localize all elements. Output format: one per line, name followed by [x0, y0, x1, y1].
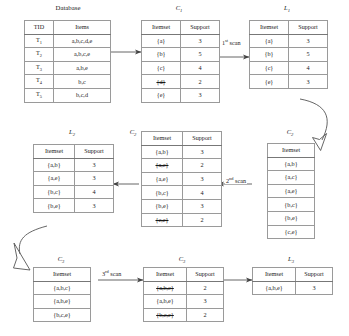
- table-row: {a,b}: [268, 157, 315, 171]
- cell-itemset: {a,e}: [34, 172, 75, 186]
- cell-support: 3: [183, 199, 222, 213]
- cell-support: 2: [183, 213, 222, 227]
- table-row: {a,b,e}3: [144, 295, 224, 309]
- cell-support: 3: [75, 158, 114, 172]
- table-l3: Itemset Support {a,b,e}3: [252, 267, 333, 295]
- table-row: {c,e}: [268, 225, 315, 239]
- table-header-row: Itemset Support: [142, 21, 220, 35]
- table-row: {b,e}: [268, 211, 315, 225]
- table-row: {e}3: [142, 88, 220, 102]
- table-row: {a,b}3: [34, 158, 114, 172]
- table-header-row: Itemset Support: [142, 132, 222, 146]
- table-c3-counted: Itemset Support {a,b,c}2 {a,b,e}3 {b,c,e…: [143, 267, 224, 322]
- cell-itemset: {b,e}: [268, 211, 315, 225]
- cell-itemset-pruned: {b,c,e}: [144, 308, 187, 322]
- cell-support: 3: [289, 34, 328, 48]
- table-row: T4 b,c: [25, 75, 111, 89]
- cell-itemset: {a}: [250, 34, 289, 48]
- table-row: {a}3: [250, 34, 328, 48]
- cell-items: b,c,d: [54, 88, 111, 102]
- cell-itemset: {a}: [142, 34, 181, 48]
- cell-itemset: {b,c}: [268, 198, 315, 212]
- table-row: T1 a,b,c,d,e: [25, 34, 111, 48]
- table-l2: Itemset Support {a,b}3 {a,e}3 {b,c}4 {b,…: [33, 144, 114, 213]
- column-header-support: Support: [187, 268, 224, 282]
- column-header-tid: TID: [25, 21, 54, 35]
- column-header-itemset: Itemset: [144, 268, 187, 282]
- cell-tid: T1: [25, 34, 54, 48]
- table-c2-candidates: Itemset {a,b} {a,c} {a,e} {b,c} {b,e} {c…: [267, 143, 315, 239]
- database-caption: Database: [24, 4, 112, 11]
- cell-itemset: {a,b,c}: [34, 281, 91, 295]
- cell-items: a,b,c,e: [54, 48, 111, 62]
- table-c2-counted: Itemset Support {a,b}3 {a,c}2 {a,e}3 {b,…: [141, 131, 222, 227]
- cell-tid: T4: [25, 75, 54, 89]
- scan-label-2: 2nd scan: [225, 176, 247, 184]
- table-header-row: Itemset Support: [144, 268, 224, 282]
- table-header-row: Itemset Support: [250, 21, 328, 35]
- caption-c2-candidates: C2: [267, 128, 313, 137]
- table-database: TID Items T1 a,b,c,d,e T2 a,b,c,e T3 a,b…: [24, 20, 111, 103]
- scan-label-1: 1st scan: [221, 38, 242, 46]
- table-row: {a,b,e}: [34, 295, 91, 309]
- caption-c3-counted: C3: [143, 255, 221, 264]
- cell-support: 2: [187, 308, 224, 322]
- table-row: T3 a,b,e: [25, 61, 111, 75]
- table-row: {a,e}: [268, 184, 315, 198]
- column-header-support: Support: [183, 132, 222, 146]
- cell-support: 2: [183, 159, 222, 173]
- table-row: {e}3: [250, 75, 328, 89]
- column-header-itemset: Itemset: [142, 21, 181, 35]
- table-row: {b}5: [250, 48, 328, 62]
- table-c1: Itemset Support {a}3 {b}5 {c}4 {d}2 {e}3: [141, 20, 220, 103]
- table-row: {b,c}4: [34, 185, 114, 199]
- cell-itemset: {b,e}: [34, 199, 75, 213]
- cell-support: 2: [187, 281, 224, 295]
- caption-l3: L3: [252, 255, 330, 264]
- cell-tid: T5: [25, 88, 54, 102]
- cell-itemset: {a,c}: [268, 171, 315, 185]
- caption-c2-counted: C2: [122, 128, 144, 137]
- column-header-items: Items: [54, 21, 111, 35]
- cell-items: b,c: [54, 75, 111, 89]
- cell-itemset-pruned: {d}: [142, 75, 181, 89]
- cell-support: 3: [75, 199, 114, 213]
- arrow-l2-to-c3-candidates: [19, 226, 47, 254]
- table-row: {d}2: [142, 75, 220, 89]
- column-header-itemset: Itemset: [268, 144, 315, 158]
- table-c3-candidates: Itemset {a,b,c} {a,b,e} {b,c,e}: [33, 267, 91, 322]
- cell-support: 3: [181, 34, 220, 48]
- table-row: {a,e}3: [142, 172, 222, 186]
- table-row: {b,e}3: [142, 199, 222, 213]
- cell-tid: T3: [25, 61, 54, 75]
- arrowhead-l2-to-c3-candidates: [14, 243, 31, 270]
- cell-support: 5: [181, 48, 220, 62]
- cell-itemset: {b}: [250, 48, 289, 62]
- column-header-itemset: Itemset: [34, 145, 75, 159]
- cell-items: a,b,e: [54, 61, 111, 75]
- cell-itemset-pruned: {a,c}: [142, 159, 183, 173]
- cell-itemset: {a,b}: [268, 157, 315, 171]
- cell-itemset: {a,e}: [142, 172, 183, 186]
- table-row: {a,b,c}2: [144, 281, 224, 295]
- table-row: {c}4: [142, 61, 220, 75]
- cell-support: 3: [289, 75, 328, 89]
- table-row: {a,c}2: [142, 159, 222, 173]
- column-header-support: Support: [75, 145, 114, 159]
- caption-l1: L1: [249, 4, 325, 13]
- column-header-itemset: Itemset: [250, 21, 289, 35]
- table-row: {b}5: [142, 48, 220, 62]
- column-header-support: Support: [296, 268, 333, 282]
- cell-support: 4: [75, 185, 114, 199]
- table-row: {a,e}3: [34, 172, 114, 186]
- cell-support: 5: [289, 48, 328, 62]
- cell-support: 3: [187, 295, 224, 309]
- cell-support: 4: [181, 61, 220, 75]
- apriori-diagram: Database TID Items T1 a,b,c,d,e T2 a,b,c…: [0, 0, 349, 336]
- table-row: {a}3: [142, 34, 220, 48]
- caption-c3-candidates: C3: [33, 255, 89, 264]
- cell-itemset: {e}: [250, 75, 289, 89]
- cell-itemset: {a,b,e}: [34, 295, 91, 309]
- cell-support: 3: [181, 88, 220, 102]
- cell-itemset-pruned: {a,b,c}: [144, 281, 187, 295]
